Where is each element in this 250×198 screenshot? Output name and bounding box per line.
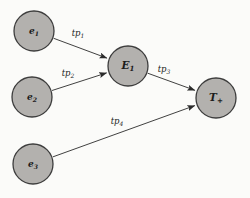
graph-diagram: e1e2e3E1T+ tp1tp2tp3tp4 [0,0,250,198]
diagram-canvas: e1e2e3E1T+ tp1tp2tp3tp4 [0,0,250,198]
edge-label-tp3: tp3 [158,64,171,75]
edge-label-tp2: tp2 [62,68,75,79]
edge-tp1 [54,38,107,58]
nodes-layer: e1e2e3E1T+ [12,11,236,184]
edge-label-tp1: tp1 [72,28,85,39]
edge-label-tp4: tp4 [111,116,124,127]
edge-tp4 [53,106,195,157]
edge-tp2 [52,73,107,91]
edge-tp3 [148,73,195,90]
